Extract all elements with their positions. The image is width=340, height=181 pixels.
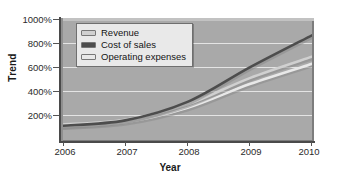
legend-swatch-revenue — [81, 30, 96, 36]
chart-legend: Revenue Cost of sales Operating expenses — [76, 23, 193, 67]
legend-label-cost-of-sales: Cost of sales — [101, 39, 156, 51]
legend-item-operating-expenses: Operating expenses — [81, 51, 186, 63]
x-tick-label-2008: 2008 — [178, 146, 199, 157]
y-axis-line — [59, 17, 61, 143]
y-tick-label-400: 400% — [6, 87, 52, 97]
trend-line-chart: Trend 1000% 800% 600% 400% 200% 2006 200… — [0, 0, 340, 181]
y-tick-label-600: 600% — [6, 63, 52, 73]
legend-label-revenue: Revenue — [101, 27, 139, 39]
y-tick-label-200: 200% — [6, 111, 52, 121]
x-axis-title: Year — [0, 162, 340, 173]
y-tick-label-1000: 1000% — [6, 15, 52, 25]
x-tick-label-2010: 2010 — [298, 146, 319, 157]
legend-label-operating-expenses: Operating expenses — [101, 51, 186, 63]
legend-item-cost-of-sales: Cost of sales — [81, 39, 186, 51]
x-tick-label-2007: 2007 — [116, 146, 137, 157]
legend-swatch-cost-of-sales — [81, 42, 96, 48]
legend-swatch-operating-expenses — [81, 54, 96, 60]
y-tick-label-800: 800% — [6, 39, 52, 49]
x-tick-label-2009: 2009 — [240, 146, 261, 157]
x-tick-label-2006: 2006 — [54, 146, 75, 157]
legend-item-revenue: Revenue — [81, 27, 186, 39]
